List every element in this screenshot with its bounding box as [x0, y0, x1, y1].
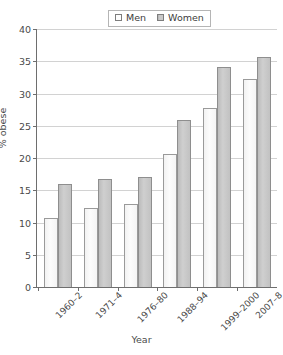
bar-group — [157, 30, 197, 287]
legend-item-women: Women — [157, 13, 204, 23]
bar-men — [203, 108, 217, 287]
x-axis-title: Year — [0, 334, 283, 345]
legend-swatch-men-icon — [115, 14, 122, 21]
plot-area-wrapper: 0510152025303540 — [36, 30, 276, 288]
bar-men — [84, 208, 98, 287]
y-axis-tick — [33, 126, 37, 127]
y-axis-tick — [33, 190, 37, 191]
y-axis-tick-label: 40 — [19, 25, 31, 35]
bar-men — [163, 154, 177, 287]
bar-men — [44, 218, 58, 287]
y-axis-tick-label: 5 — [25, 251, 31, 261]
x-axis-tick-label: 1971–4 — [94, 290, 125, 321]
x-axis-tick-label: 1960–2 — [54, 290, 85, 321]
x-axis-tick-label: 1976–80 — [135, 290, 170, 325]
y-axis-tick-label: 30 — [19, 90, 31, 100]
x-tick-labels: 1960–21971–41976–801988–941999–20002007–… — [36, 290, 276, 336]
bar-women — [138, 177, 152, 287]
y-axis-tick-label: 10 — [19, 219, 31, 229]
y-axis-tick — [33, 94, 37, 95]
y-axis-tick — [33, 255, 37, 256]
bar-women — [257, 57, 271, 287]
bar-group — [38, 30, 78, 287]
bar-men — [243, 79, 257, 287]
bar-women — [177, 120, 191, 287]
legend-swatch-women-icon — [157, 14, 164, 21]
obesity-bar-chart: Men Women % obese 0510152025303540 1960–… — [0, 0, 283, 355]
y-axis-title: % obese — [0, 108, 8, 149]
bar-group — [197, 30, 237, 287]
chart-legend: Men Women — [108, 10, 211, 27]
bar-group — [118, 30, 158, 287]
y-axis-tick-label: 20 — [19, 154, 31, 164]
y-axis-tick-label: 35 — [19, 58, 31, 68]
y-axis-tick-label: 0 — [25, 283, 31, 293]
y-axis-tick-label: 15 — [19, 187, 31, 197]
y-axis-tick — [33, 287, 37, 288]
y-axis-tick — [33, 223, 37, 224]
bar-women — [58, 184, 72, 287]
legend-label-women: Women — [168, 13, 204, 23]
y-axis-tick — [33, 61, 37, 62]
bar-women — [98, 179, 112, 287]
legend-item-men: Men — [115, 13, 146, 23]
bar-group — [237, 30, 277, 287]
legend-label-men: Men — [126, 13, 146, 23]
x-axis-tick-label: 1988–94 — [175, 290, 210, 325]
plot-area: 0510152025303540 — [36, 30, 276, 288]
y-axis-tick — [33, 158, 37, 159]
bar-group — [78, 30, 118, 287]
bar-men — [124, 204, 138, 287]
bars-layer — [38, 30, 277, 287]
bar-women — [217, 67, 231, 287]
y-axis-tick — [33, 29, 37, 30]
y-axis-tick-label: 25 — [19, 122, 31, 132]
